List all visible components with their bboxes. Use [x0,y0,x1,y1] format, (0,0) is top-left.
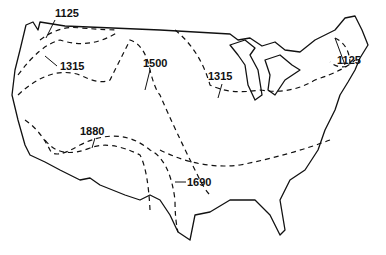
label-1315-north: 1315 [208,70,232,82]
label-1125-ne: 1125 [337,54,361,66]
contour-1690-east [160,140,330,166]
label-1125-nw: 1125 [55,7,79,19]
arrow-1500 [145,70,150,90]
us-outline [12,16,368,240]
label-group: 1125 1315 1500 1315 1125 1880 1690 [45,7,361,188]
label-1880: 1880 [80,125,104,137]
contour-1880 [45,140,150,210]
arrow-1315-north [218,84,222,98]
label-1690: 1690 [187,176,211,188]
great-lakes [230,40,300,100]
us-contour-map: 1125 1315 1500 1315 1125 1880 1690 [0,0,386,255]
contour-1500 [18,40,210,195]
label-1500: 1500 [143,57,167,69]
label-1315-nw: 1315 [60,60,84,72]
arrow-1315-nw [45,56,57,66]
